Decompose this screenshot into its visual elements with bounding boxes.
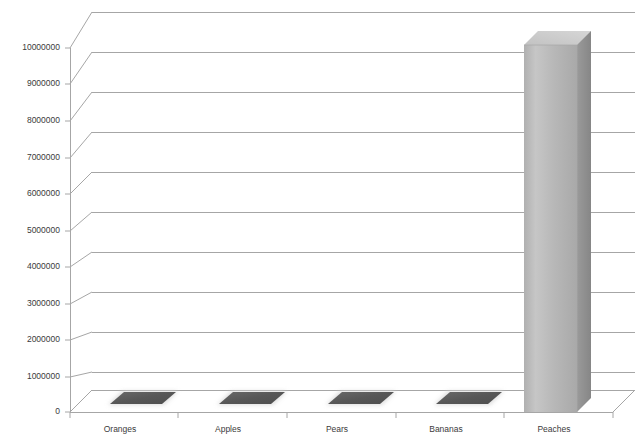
xtick-label-peaches: Peaches: [537, 424, 570, 434]
ytick-label-6: 6000000: [27, 188, 60, 198]
xtick-label-oranges: Oranges: [104, 424, 137, 434]
ytick-label-10: 10000000: [22, 42, 60, 52]
value-axis-ticks: [65, 48, 70, 412]
depth-connectors: [70, 12, 92, 412]
depth-line-9000000: [70, 52, 92, 84]
bar-series: [108, 31, 591, 412]
ytick-label-9: 9000000: [27, 78, 60, 88]
depth-line-8000000: [70, 92, 92, 121]
depth-line-7000000: [70, 132, 92, 158]
depth-line-5000000: [70, 212, 92, 231]
bar-oranges[interactable]: [108, 391, 178, 405]
bar-peaches-side: [577, 31, 591, 412]
chart-3d-column: 10000000 9000000 8000000 7000000 6000000…: [0, 0, 642, 445]
depth-line-0: [70, 390, 92, 412]
depth-line-10000000: [70, 12, 92, 48]
depth-line-3000000: [70, 292, 92, 304]
category-axis-tick-labels: Oranges Apples Pears Bananas Peaches: [104, 424, 571, 434]
xtick-label-apples: Apples: [215, 424, 241, 434]
ytick-label-5: 5000000: [27, 225, 60, 235]
floor-right-depth-edge: [613, 390, 635, 412]
depth-line-4000000: [70, 252, 92, 267]
ytick-label-1: 1000000: [27, 371, 60, 381]
xtick-label-bananas: Bananas: [429, 424, 463, 434]
xtick-label-pears: Pears: [326, 424, 348, 434]
category-axis-ticks: [70, 412, 613, 418]
ytick-label-3: 3000000: [27, 298, 60, 308]
ytick-label-4: 4000000: [27, 261, 60, 271]
bar-peaches-front: [524, 45, 577, 412]
bar-bananas[interactable]: [434, 391, 504, 405]
depth-line-6000000: [70, 172, 92, 194]
bar-pears[interactable]: [326, 391, 396, 405]
ytick-label-8: 8000000: [27, 115, 60, 125]
ytick-label-0: 0: [55, 406, 60, 416]
ytick-label-2: 2000000: [27, 334, 60, 344]
ytick-label-7: 7000000: [27, 152, 60, 162]
value-axis-tick-labels: 10000000 9000000 8000000 7000000 6000000…: [22, 42, 60, 416]
depth-line-2000000: [70, 332, 92, 340]
depth-line-1000000: [70, 372, 92, 377]
bar-apples[interactable]: [217, 391, 287, 405]
bar-peaches[interactable]: [524, 31, 591, 412]
chart-canvas: 10000000 9000000 8000000 7000000 6000000…: [0, 0, 642, 445]
